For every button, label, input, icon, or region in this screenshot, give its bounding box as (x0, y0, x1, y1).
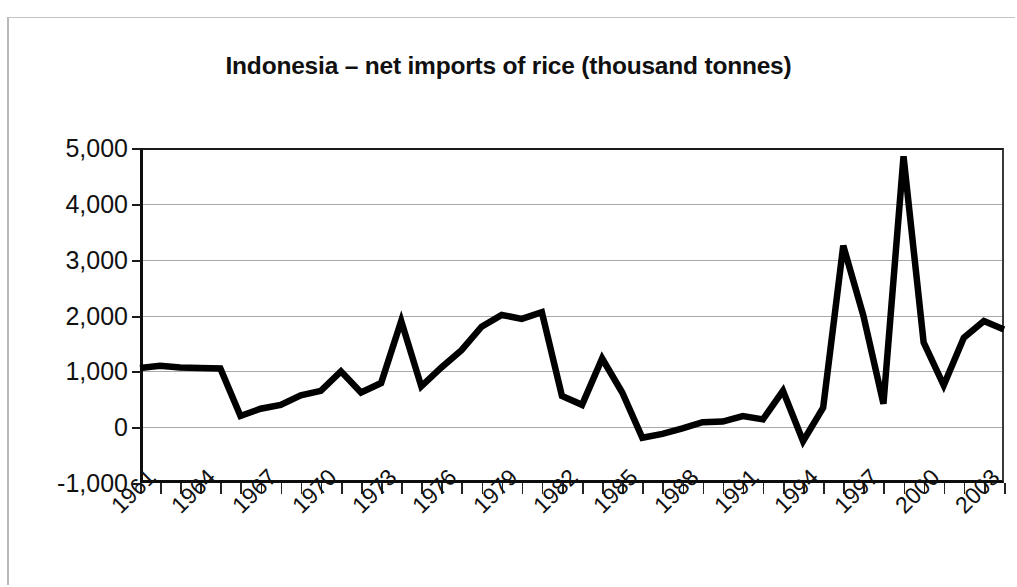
y-axis-tick-mark (132, 316, 141, 318)
y-axis-tick-mark (132, 483, 141, 485)
x-axis-tick-mark (401, 483, 403, 494)
x-axis-tick-mark (522, 483, 524, 494)
y-axis-tick-label: 0 (114, 413, 128, 442)
y-axis-tick-label: 5,000 (65, 134, 128, 163)
chart-title: Indonesia – net imports of rice (thousan… (0, 52, 1017, 80)
y-axis-tick-mark (132, 260, 141, 262)
y-axis-tick-label: 2,000 (65, 301, 128, 330)
x-axis-tick-mark (703, 483, 705, 494)
x-axis-tick-mark (823, 483, 825, 494)
x-axis-tick-mark (582, 483, 584, 494)
x-axis-tick-mark (341, 483, 343, 494)
x-axis-tick-mark (461, 483, 463, 494)
y-axis-tick-mark (132, 371, 141, 373)
x-axis-tick-mark (642, 483, 644, 494)
chart-page: Indonesia – net imports of rice (thousan… (0, 0, 1017, 587)
y-axis-tick-mark (132, 427, 141, 429)
x-axis-tick-mark (160, 483, 162, 494)
plot-area (140, 148, 1004, 483)
y-axis-tick-mark (132, 204, 141, 206)
y-axis-tick-label: 1,000 (65, 357, 128, 386)
x-axis-tick-mark (883, 483, 885, 494)
x-axis-tick-mark (763, 483, 765, 494)
y-axis-tick-label: 3,000 (65, 245, 128, 274)
data-series-line (140, 148, 1004, 483)
x-axis-tick-mark (220, 483, 222, 494)
y-axis-tick-label: 4,000 (65, 189, 128, 218)
x-axis-tick-mark (1004, 483, 1006, 494)
x-axis-tick-mark (281, 483, 283, 494)
y-axis-labels: 5,0004,0003,0002,0001,0000-1,000 (0, 148, 128, 483)
x-axis-tick-mark (944, 483, 946, 494)
y-axis-tick-mark (132, 148, 141, 150)
